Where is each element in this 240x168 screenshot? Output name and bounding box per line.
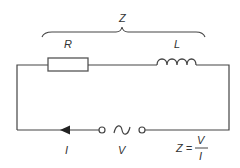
voltage-label: V — [118, 144, 127, 156]
impedance-label: Z — [118, 12, 127, 24]
wire-top-left — [17, 65, 48, 130]
current-arrow-icon — [60, 126, 70, 135]
source-terminal-right — [139, 127, 145, 133]
impedance-brace — [42, 27, 205, 37]
formula-numerator: V — [197, 134, 206, 146]
rl-circuit-diagram: Z R L I V Z = V I — [0, 0, 240, 168]
formula-lhs: Z = — [175, 142, 193, 154]
resistor-label: R — [64, 38, 72, 50]
formula-denominator: I — [199, 150, 202, 162]
current-label: I — [65, 144, 68, 156]
wire-right — [145, 65, 229, 130]
source-terminal-left — [99, 127, 105, 133]
inductor-label: L — [174, 38, 180, 50]
inductor-symbol — [157, 59, 196, 65]
resistor-symbol — [48, 58, 88, 71]
ac-source-icon — [114, 126, 130, 134]
